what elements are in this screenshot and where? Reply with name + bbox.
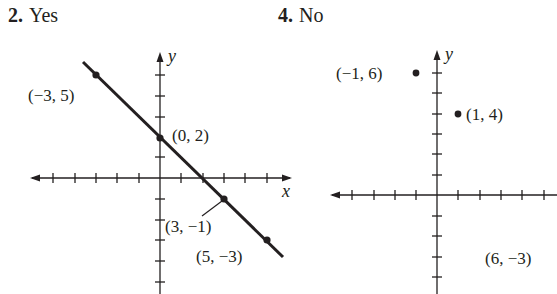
point-label: (1, 4): [466, 105, 503, 124]
y-axis: [432, 50, 442, 294]
graph-exercise-4: y (−1, 6) (1, 4) (6, −3): [0, 0, 557, 294]
point-label: (6, −3): [485, 249, 531, 268]
point-marker: [413, 70, 420, 77]
y-axis-label: y: [443, 44, 453, 64]
point-marker: [455, 111, 462, 118]
point-label: (−1, 6): [336, 64, 382, 83]
x-axis: [330, 190, 557, 200]
